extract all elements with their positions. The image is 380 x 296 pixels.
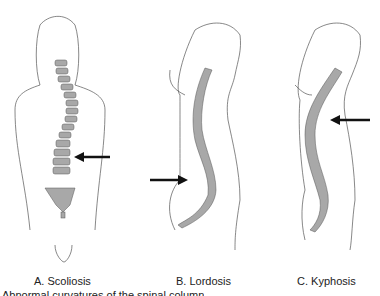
lordosis-figure (170, 23, 241, 250)
panel-label-kyphosis: C. Kyphosis (297, 275, 356, 287)
panel-label-scoliosis: A. Scoliosis (34, 275, 91, 287)
lordosis-arrow (150, 175, 188, 185)
kyphosis-spine (305, 68, 342, 232)
figure-caption: Abnormal curvatures of the spinal column (2, 290, 204, 296)
panel-label-lordosis: B. Lordosis (176, 275, 231, 287)
scoliosis-spine (45, 60, 78, 218)
spine-diagram (0, 0, 380, 296)
scoliosis-arrow (74, 152, 110, 162)
scoliosis-figure (15, 16, 105, 262)
lordosis-spine (178, 68, 216, 228)
kyphosis-arrow (330, 115, 370, 125)
